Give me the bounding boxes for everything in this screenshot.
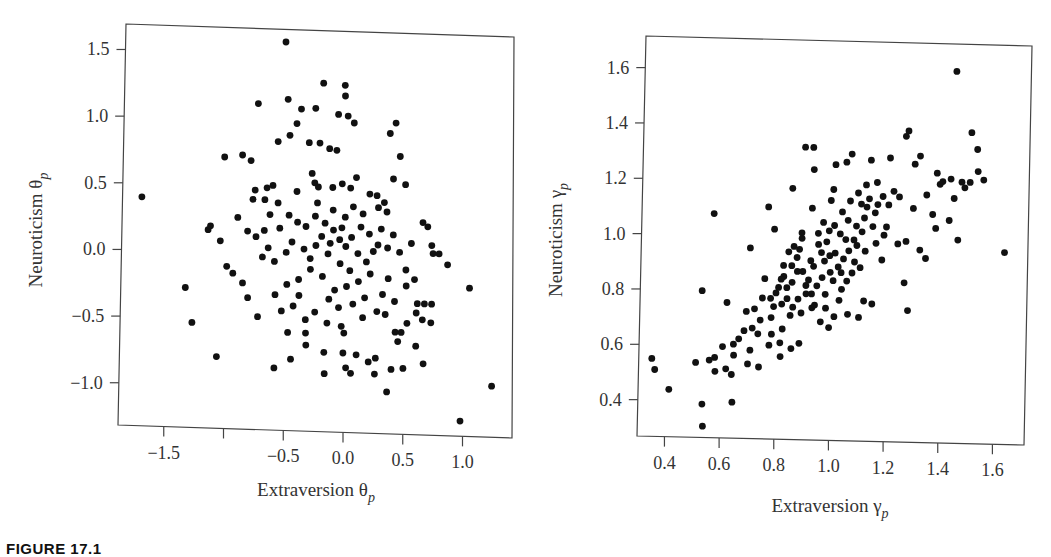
data-point [363, 259, 370, 266]
data-point [252, 187, 259, 194]
data-point [809, 205, 816, 212]
y-tick-label: 1.5 [87, 39, 110, 59]
data-point [342, 214, 349, 221]
data-point [315, 184, 322, 191]
data-point [424, 223, 431, 230]
data-point [735, 335, 742, 342]
data-point [255, 100, 262, 107]
data-point [353, 174, 360, 181]
data-point [334, 147, 341, 154]
data-point [728, 371, 735, 378]
data-point [811, 166, 818, 173]
data-point [428, 301, 435, 308]
x-tick-label: 0.0 [332, 448, 355, 468]
left-x-axis-label: Extraversion θp [257, 479, 375, 505]
data-point [385, 275, 392, 282]
data-point [387, 130, 394, 137]
data-point [835, 264, 842, 271]
left-x-axis-ticks: −1.5−0.50.00.51.0 [147, 427, 473, 473]
data-point [811, 302, 818, 309]
data-point [413, 310, 420, 317]
y-tick-label: 0.4 [599, 390, 622, 410]
data-point [719, 343, 726, 350]
data-point [400, 365, 407, 372]
data-point [347, 370, 354, 377]
data-point [929, 211, 936, 218]
data-point [374, 192, 381, 199]
data-point [784, 295, 791, 302]
data-point [404, 320, 411, 327]
y-tick-label: 1.4 [606, 113, 629, 133]
data-point [783, 284, 790, 291]
data-point [320, 80, 327, 87]
data-point [749, 325, 756, 332]
left-plot-frame [118, 24, 514, 438]
data-point [394, 338, 401, 345]
data-point [361, 294, 368, 301]
data-point [217, 237, 224, 244]
data-point [309, 170, 316, 177]
data-point [189, 319, 196, 326]
data-point [777, 353, 784, 360]
data-point [250, 196, 257, 203]
data-point [820, 219, 827, 226]
data-point [810, 144, 817, 151]
data-point [863, 182, 870, 189]
data-point [390, 232, 397, 239]
data-point [822, 305, 829, 312]
data-point [699, 401, 706, 408]
data-point [295, 276, 302, 283]
data-point [314, 200, 321, 207]
data-point [779, 326, 786, 333]
data-point [347, 185, 354, 192]
data-point [340, 350, 347, 357]
data-point [350, 203, 357, 210]
data-point [384, 245, 391, 252]
data-point [791, 243, 798, 250]
data-point [789, 279, 796, 286]
data-point [283, 249, 290, 256]
data-point [805, 277, 812, 284]
data-point [373, 308, 380, 315]
data-point [923, 192, 930, 199]
data-point [776, 339, 783, 346]
left-y-axis-label: Neuroticism θp [25, 173, 51, 288]
data-point [396, 249, 403, 256]
data-point [371, 371, 378, 378]
data-point [239, 280, 246, 287]
data-point [873, 240, 880, 247]
data-point [730, 352, 737, 359]
data-point [275, 138, 282, 145]
data-point [940, 178, 947, 185]
data-point [861, 215, 868, 222]
data-point [339, 224, 346, 231]
data-point [912, 161, 919, 168]
data-point [261, 227, 268, 234]
data-point [799, 268, 806, 275]
data-point [665, 386, 672, 393]
data-point [351, 120, 358, 127]
data-point [360, 211, 367, 218]
data-point [787, 312, 794, 319]
data-point [408, 240, 415, 247]
data-point [810, 263, 817, 270]
data-point [294, 219, 301, 226]
x-tick-label: 0.4 [653, 453, 676, 473]
data-point [796, 340, 803, 347]
data-point [290, 303, 297, 310]
data-point [330, 207, 337, 214]
data-point [767, 295, 774, 302]
data-point [651, 366, 658, 373]
data-point [289, 239, 296, 246]
data-point [420, 360, 427, 367]
data-point [285, 96, 292, 103]
data-point [301, 246, 308, 253]
data-point [830, 277, 837, 284]
data-point [778, 301, 785, 308]
data-point [768, 314, 775, 321]
data-point [318, 233, 325, 240]
data-point [366, 231, 373, 238]
data-point [398, 329, 405, 336]
data-point [699, 287, 706, 294]
data-point [836, 297, 843, 304]
